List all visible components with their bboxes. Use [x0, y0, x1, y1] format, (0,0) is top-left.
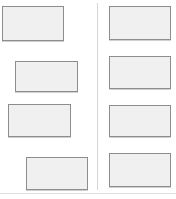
placeholder-box-label — [110, 106, 170, 136]
placeholder-box[interactable] — [8, 104, 71, 137]
placeholder-box[interactable] — [109, 105, 171, 137]
footer-rule — [0, 193, 176, 194]
page-root — [0, 0, 176, 199]
placeholder-box-label — [9, 105, 70, 136]
placeholder-box-label — [27, 158, 87, 189]
placeholder-box[interactable] — [26, 157, 88, 190]
placeholder-box-label — [110, 7, 170, 39]
placeholder-box[interactable] — [109, 153, 171, 187]
placeholder-box-label — [110, 154, 170, 186]
placeholder-box[interactable] — [109, 56, 171, 89]
placeholder-box[interactable] — [2, 6, 64, 41]
placeholder-box[interactable] — [109, 6, 171, 40]
right-column — [97, 0, 176, 199]
placeholder-box[interactable] — [15, 61, 78, 92]
placeholder-box-label — [3, 7, 63, 40]
placeholder-box-label — [110, 57, 170, 88]
left-column — [0, 0, 97, 199]
placeholder-box-label — [16, 62, 77, 91]
